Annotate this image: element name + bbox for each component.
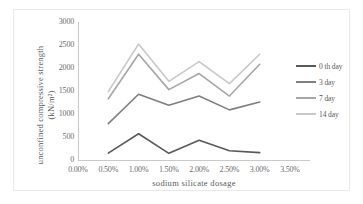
legend-item[interactable]: 7 day — [296, 90, 354, 106]
legend-swatch-icon — [296, 81, 316, 83]
legend-swatch-icon — [296, 113, 316, 115]
legend-label: 3 day — [319, 78, 335, 87]
figure-canvas: 050010001500200025003000 0.00%0.50%1.00%… — [0, 0, 363, 204]
legend-label: 14 day — [319, 110, 339, 119]
legend-item[interactable]: 0 th day — [296, 58, 354, 74]
y-axis-title: unconfined compressive strength (kN/m²) — [35, 38, 57, 172]
series-line — [108, 94, 259, 123]
legend-item[interactable]: 3 day — [296, 74, 354, 90]
legend-label: 7 day — [319, 94, 335, 103]
plot-area — [78, 22, 290, 160]
legend-swatch-icon — [296, 65, 316, 67]
series-line — [108, 134, 259, 154]
x-axis-tick-label: 3.50% — [270, 165, 310, 174]
legend-label: 0 th day — [319, 62, 342, 71]
y-axis-tick-label: 3000 — [40, 18, 74, 26]
x-axis-title: sodium silicate dosage — [78, 178, 310, 188]
x-axis-line — [78, 160, 310, 161]
chart-legend: 0 th day3 day7 day14 day — [296, 58, 354, 122]
legend-item[interactable]: 14 day — [296, 106, 354, 122]
y-axis-title-wrapper: unconfined compressive strength (kN/m²) — [22, 20, 36, 160]
series-lines — [108, 44, 259, 153]
legend-swatch-icon — [296, 97, 316, 99]
series-line — [108, 44, 259, 91]
